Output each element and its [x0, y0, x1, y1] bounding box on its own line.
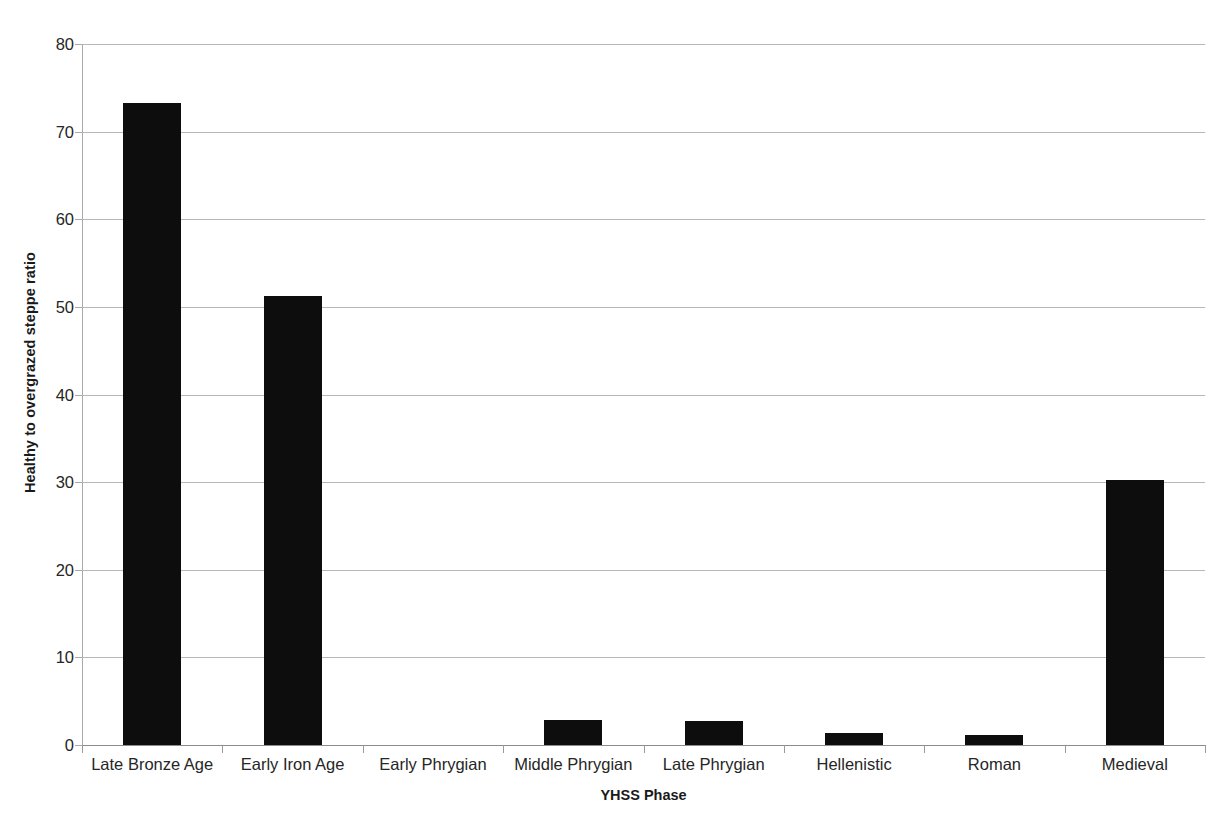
x-axis-tick-mark: [924, 745, 925, 753]
y-axis-tick-labels: 01020304050607080: [10, 0, 74, 822]
x-axis-tick-mark: [1065, 745, 1066, 753]
x-axis-tick-label: Medieval: [1102, 755, 1168, 774]
gridline: [82, 44, 1205, 45]
x-axis-tick-mark: [503, 745, 504, 753]
gridline: [82, 482, 1205, 483]
bar: [544, 720, 602, 745]
y-axis-tick-label: 10: [16, 648, 74, 667]
x-axis-tick-mark: [222, 745, 223, 753]
gridline: [82, 657, 1205, 658]
x-axis-tick-mark: [784, 745, 785, 753]
x-axis-tick-mark: [363, 745, 364, 753]
plot-area: [82, 44, 1205, 745]
gridline: [82, 570, 1205, 571]
y-axis-tick-mark: [75, 132, 82, 133]
gridline: [82, 219, 1205, 220]
x-axis-tick-label: Hellenistic: [816, 755, 891, 774]
y-axis-tick-mark: [75, 657, 82, 658]
y-axis-tick-mark: [75, 395, 82, 396]
x-axis-tick-label: Early Iron Age: [241, 755, 345, 774]
bar: [965, 735, 1023, 746]
y-axis-tick-mark: [75, 307, 82, 308]
y-axis-tick-label: 50: [16, 297, 74, 316]
gridline: [82, 132, 1205, 133]
gridline: [82, 395, 1205, 396]
x-axis-tick-labels: Late Bronze AgeEarly Iron AgeEarly Phryg…: [82, 755, 1205, 781]
x-axis-title: YHSS Phase: [82, 787, 1205, 803]
bar-chart-figure: Healthy to overgrazed steppe ratio 01020…: [0, 0, 1227, 822]
x-axis-tick-label: Early Phrygian: [379, 755, 486, 774]
y-axis-tick-label: 70: [16, 122, 74, 141]
y-axis-tick-mark: [75, 219, 82, 220]
bar: [264, 296, 322, 745]
y-axis-tick-label: 30: [16, 473, 74, 492]
y-axis-tick-mark: [75, 745, 82, 746]
y-axis-tick-mark: [75, 570, 82, 571]
x-axis-tick-mark: [644, 745, 645, 753]
x-axis-tick-mark: [1205, 745, 1206, 753]
x-axis-tick-label: Middle Phrygian: [514, 755, 632, 774]
bar: [123, 103, 181, 745]
y-axis-tick-label: 20: [16, 560, 74, 579]
bar: [825, 733, 883, 745]
x-axis-tick-label: Late Bronze Age: [91, 755, 213, 774]
x-axis-tick-label: Late Phrygian: [663, 755, 765, 774]
x-axis-tick-mark: [82, 745, 83, 753]
bar: [685, 721, 743, 745]
bar: [1106, 480, 1164, 746]
y-axis-tick-mark: [75, 44, 82, 45]
y-axis-tick-label: 0: [16, 736, 74, 755]
x-axis-tick-label: Roman: [968, 755, 1021, 774]
y-axis-tick-label: 80: [16, 35, 74, 54]
y-axis-tick-label: 60: [16, 210, 74, 229]
y-axis-tick-mark: [75, 482, 82, 483]
y-axis-tick-label: 40: [16, 385, 74, 404]
gridline: [82, 307, 1205, 308]
